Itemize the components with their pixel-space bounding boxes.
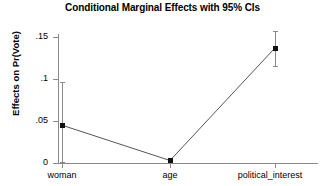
y-tick-label: .15 (8, 32, 48, 41)
data-point-marker (60, 123, 65, 128)
data-point-marker (273, 46, 278, 51)
confidence-interval-cap (273, 31, 278, 32)
data-point-marker (168, 158, 173, 163)
confidence-interval-cap (60, 162, 65, 163)
confidence-interval-cap (273, 66, 278, 67)
x-tick-mark (275, 163, 276, 168)
y-tick-mark (53, 37, 58, 38)
confidence-interval-cap (60, 82, 65, 83)
x-tick-label-woman: woman (22, 170, 102, 180)
x-axis-line (58, 163, 318, 164)
x-tick-label-political-interest: political_interest (215, 170, 325, 180)
marginal-effects-chart: Conditional Marginal Effects with 95% CI… (0, 0, 325, 186)
series-line (0, 0, 325, 186)
y-tick-label: .05 (8, 116, 48, 125)
chart-title: Conditional Marginal Effects with 95% CI… (0, 2, 325, 13)
y-tick-label: .1 (8, 74, 48, 83)
x-tick-mark (62, 163, 63, 168)
y-tick-mark (53, 79, 58, 80)
y-tick-mark (53, 121, 58, 122)
y-tick-mark (53, 163, 58, 164)
y-axis-line (58, 34, 59, 164)
x-tick-label-age: age (130, 170, 210, 180)
y-tick-label: 0 (8, 158, 48, 167)
